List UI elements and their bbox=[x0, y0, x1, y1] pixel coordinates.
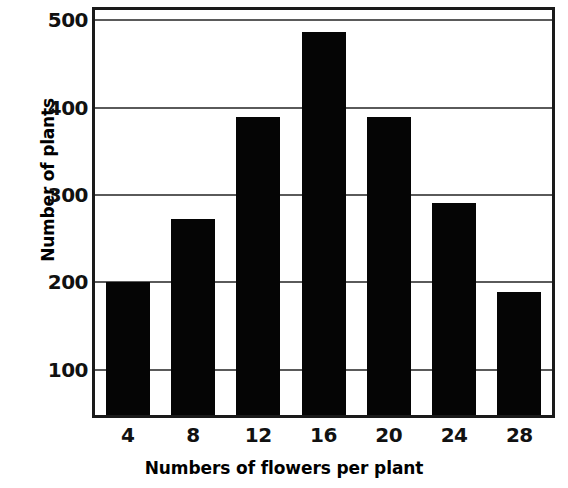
bar bbox=[106, 282, 150, 415]
bar bbox=[302, 32, 346, 415]
y-tick-label-200: 200 bbox=[26, 272, 88, 292]
x-tick-label-20: 20 bbox=[359, 425, 419, 445]
bar bbox=[367, 117, 411, 416]
bar bbox=[236, 117, 280, 416]
bar bbox=[432, 203, 476, 415]
x-tick-label-12: 12 bbox=[228, 425, 288, 445]
bar bbox=[497, 292, 541, 415]
y-tick-label-500: 500 bbox=[26, 10, 88, 30]
x-tick-label-16: 16 bbox=[294, 425, 354, 445]
y-axis-tick-labels: 500400300200100 bbox=[18, 0, 88, 488]
y-tick-label-100: 100 bbox=[26, 360, 88, 380]
y-tick-label-300: 300 bbox=[26, 185, 88, 205]
x-tick-label-24: 24 bbox=[424, 425, 484, 445]
plot-area bbox=[92, 7, 555, 418]
x-tick-label-4: 4 bbox=[98, 425, 158, 445]
bar bbox=[171, 219, 215, 415]
bar-chart: Number of plants 500400300200100 4812162… bbox=[0, 0, 568, 488]
x-axis-title: Numbers of flowers per plant bbox=[0, 458, 568, 478]
y-tick-label-400: 400 bbox=[26, 98, 88, 118]
bars-group bbox=[95, 10, 552, 415]
x-tick-label-28: 28 bbox=[489, 425, 549, 445]
x-tick-label-8: 8 bbox=[163, 425, 223, 445]
x-axis-tick-labels: 481216202428 bbox=[92, 425, 555, 455]
